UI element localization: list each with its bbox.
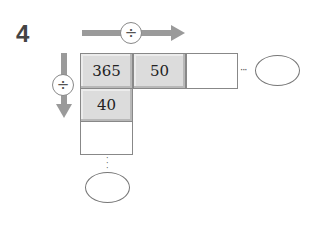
cell-365: 365: [80, 53, 133, 89]
cell-40: 40: [80, 88, 133, 122]
answer-oval-vertical[interactable]: [85, 172, 130, 203]
cell-column-blank[interactable]: [80, 121, 133, 155]
vertical-ellipsis: ···: [106, 156, 108, 171]
horizontal-ellipsis: ···: [240, 64, 247, 75]
answer-oval-horizontal[interactable]: [255, 55, 300, 86]
division-icon-vertical: ÷: [52, 74, 74, 96]
cell-row-blank[interactable]: [186, 53, 238, 89]
down-arrow-icon: [56, 104, 72, 118]
cell-50: 50: [133, 53, 186, 89]
division-icon-horizontal: ÷: [120, 22, 142, 44]
problem-number: 4: [16, 20, 29, 48]
right-arrow-icon: [171, 25, 185, 41]
